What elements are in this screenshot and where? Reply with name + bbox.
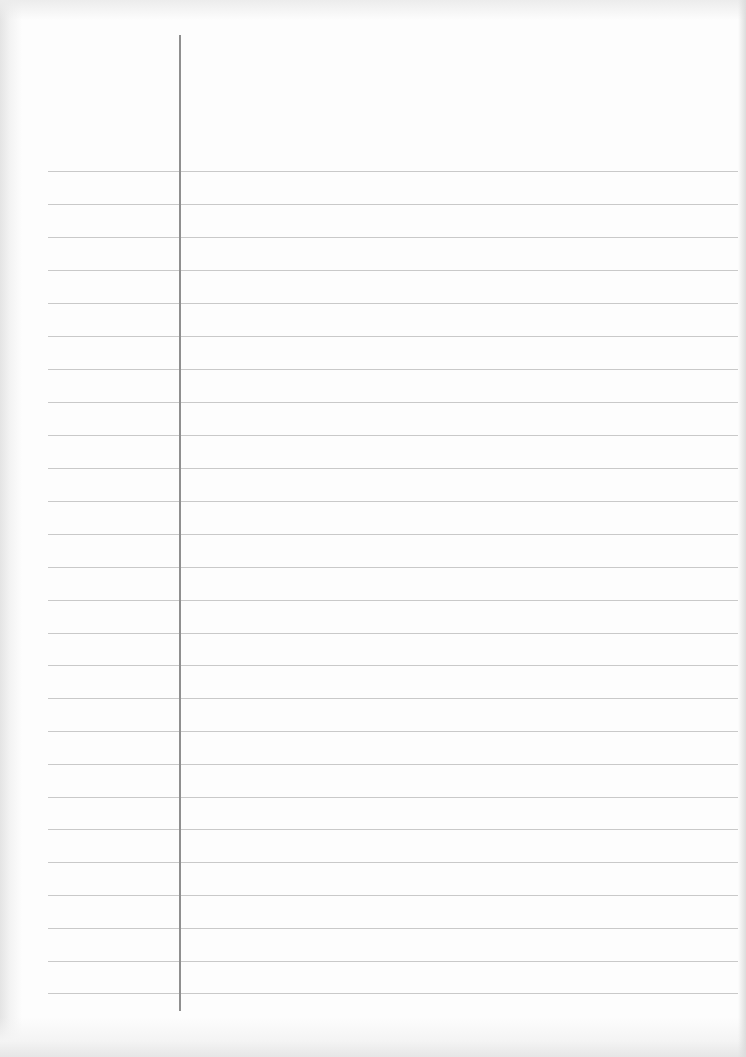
- top-edge-shadow: [0, 0, 746, 20]
- ruled-line: [48, 961, 738, 962]
- ruled-line: [48, 829, 738, 830]
- ruled-line: [48, 501, 738, 502]
- ruled-line: [48, 928, 738, 929]
- ruled-line: [48, 402, 738, 403]
- margin-line: [179, 35, 181, 1011]
- ruled-line: [48, 567, 738, 568]
- ruled-line: [48, 204, 738, 205]
- ruled-line: [48, 665, 738, 666]
- ruled-line: [48, 336, 738, 337]
- ruled-line: [48, 797, 738, 798]
- left-edge-shadow: [0, 0, 22, 1057]
- ruled-line: [48, 731, 738, 732]
- ruled-line: [48, 862, 738, 863]
- ruled-line: [48, 369, 738, 370]
- ruled-line: [48, 993, 738, 994]
- right-edge-shadow: [738, 0, 746, 1057]
- ruled-line: [48, 237, 738, 238]
- ruled-line: [48, 534, 738, 535]
- ruled-line: [48, 764, 738, 765]
- ruled-page: [0, 0, 746, 1057]
- ruled-line: [48, 435, 738, 436]
- ruled-line: [48, 600, 738, 601]
- ruled-line: [48, 468, 738, 469]
- ruled-line: [48, 171, 738, 172]
- ruled-line: [48, 303, 738, 304]
- ruled-line: [48, 698, 738, 699]
- bottom-edge-shadow: [0, 1017, 746, 1057]
- ruled-line: [48, 895, 738, 896]
- ruled-line: [48, 270, 738, 271]
- ruled-line: [48, 633, 738, 634]
